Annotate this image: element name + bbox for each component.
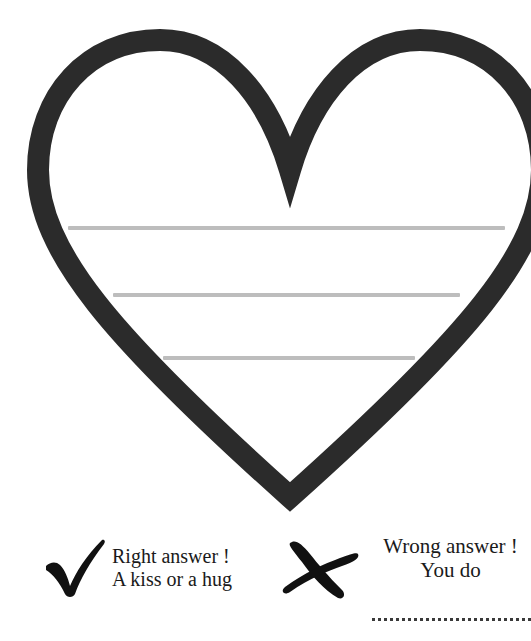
dotted-fill-in-line[interactable] [372, 618, 531, 625]
cross-mark-icon [272, 536, 364, 604]
wrong-answer-text: Wrong answer ! You do [370, 534, 531, 583]
wrong-answer-line-2: You do [370, 558, 531, 582]
writing-line-1 [68, 226, 505, 230]
heart-outline-icon [0, 0, 531, 520]
writing-line-2 [113, 293, 460, 297]
worksheet-page: Right answer ! A kiss or a hug Wrong ans… [0, 0, 531, 641]
check-mark-icon [42, 536, 108, 598]
right-answer-block: Right answer ! A kiss or a hug [30, 520, 270, 641]
heart-card [0, 0, 531, 520]
right-answer-text: Right answer ! A kiss or a hug [112, 545, 232, 591]
writing-line-3 [163, 356, 415, 360]
right-answer-line-1: Right answer ! [112, 545, 230, 567]
right-answer-line-2: A kiss or a hug [112, 568, 232, 591]
wrong-answer-line-1: Wrong answer ! [383, 534, 517, 558]
